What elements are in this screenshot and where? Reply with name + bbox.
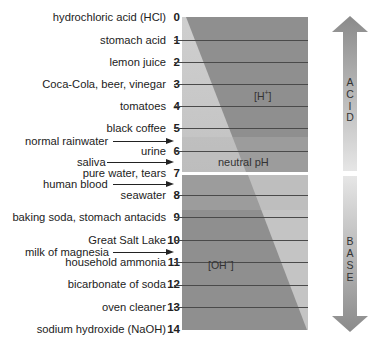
arrowhead-icon bbox=[166, 249, 174, 255]
concentration-wedges bbox=[182, 17, 308, 330]
acid-letter-d: D bbox=[330, 111, 370, 123]
pointer-label-saliva: saliva bbox=[77, 156, 106, 168]
gridline-ph8 bbox=[182, 195, 308, 196]
tick-ph4 bbox=[174, 106, 182, 107]
label-ph10: Great Salt Lake bbox=[88, 234, 166, 246]
gridline-ph6 bbox=[182, 151, 308, 152]
base-letter-s: S bbox=[330, 259, 370, 271]
pointer-arrow-saliva bbox=[107, 162, 168, 163]
arrowhead-icon bbox=[166, 138, 174, 144]
tick-ph8 bbox=[174, 195, 182, 196]
gridline-ph11 bbox=[182, 262, 308, 263]
neutral-ph-label: neutral pH bbox=[218, 156, 269, 168]
label-ph0: hydrochloric acid (HCl) bbox=[53, 11, 166, 23]
tick-ph5 bbox=[174, 128, 182, 129]
tick-ph9 bbox=[174, 217, 182, 218]
ph-number-7: 7 bbox=[160, 167, 180, 179]
label-ph9: baking soda, stomach antacids bbox=[12, 211, 166, 223]
gridline-ph3 bbox=[182, 84, 308, 85]
ph-number-0: 0 bbox=[160, 11, 180, 23]
pointer-arrow-rainwater bbox=[113, 141, 168, 142]
gridline-ph9 bbox=[182, 217, 308, 218]
tick-ph11 bbox=[174, 262, 182, 263]
ph-scale-chart: [H+] neutral pH [OH−] bbox=[182, 17, 308, 330]
tick-ph2 bbox=[174, 62, 182, 63]
ph-number-12: 12 bbox=[160, 278, 180, 290]
pointer-arrow-blood bbox=[113, 184, 168, 185]
arrowhead-icon bbox=[166, 181, 174, 187]
pointer-label-magnesia: milk of magnesia bbox=[25, 246, 109, 258]
base-letter-b: B bbox=[330, 235, 370, 247]
gridline-ph13 bbox=[182, 307, 308, 308]
gridline-ph5 bbox=[182, 128, 308, 129]
tick-ph6 bbox=[174, 151, 182, 152]
gridline-ph10 bbox=[182, 240, 308, 241]
pointer-arrow-magnesia bbox=[113, 252, 168, 253]
acid-base-arrow: A C I D B A S E bbox=[330, 16, 370, 332]
tick-ph13 bbox=[174, 307, 182, 308]
label-ph3: Coca-Cola, beer, vinegar bbox=[42, 78, 166, 90]
label-ph13: oven cleaner bbox=[102, 301, 166, 313]
label-ph2: lemon juice bbox=[109, 56, 166, 68]
gridline-ph1 bbox=[182, 40, 308, 41]
pointer-label-blood: human blood bbox=[43, 178, 108, 190]
label-ph12: bicarbonate of soda bbox=[68, 278, 166, 290]
gridline-ph2 bbox=[182, 62, 308, 63]
tick-ph12 bbox=[174, 285, 182, 286]
arrowhead-icon bbox=[166, 159, 174, 165]
hydroxide-ion-label: [OH−] bbox=[208, 258, 234, 271]
substance-labels: hydrochloric acid (HCl) stomach acid lem… bbox=[0, 0, 166, 347]
gridline-ph4 bbox=[182, 106, 308, 107]
base-letter-a: A bbox=[330, 247, 370, 259]
tick-ph10 bbox=[174, 240, 182, 241]
label-ph5: black coffee bbox=[107, 122, 167, 134]
acid-letter-c: C bbox=[330, 88, 370, 100]
hydrogen-ion-label: [H+] bbox=[254, 89, 272, 102]
label-ph1: stomach acid bbox=[100, 34, 166, 46]
tick-ph1 bbox=[174, 40, 182, 41]
double-arrow-icon bbox=[330, 16, 370, 332]
tick-ph3 bbox=[174, 84, 182, 85]
ph-number-14: 14 bbox=[160, 323, 180, 335]
pointer-label-rainwater: normal rainwater bbox=[25, 135, 108, 147]
gridline-ph12 bbox=[182, 285, 308, 286]
label-ph14: sodium hydroxide (NaOH) bbox=[37, 323, 166, 335]
base-letter-e: E bbox=[330, 271, 370, 283]
acid-letter-a: A bbox=[330, 76, 370, 88]
